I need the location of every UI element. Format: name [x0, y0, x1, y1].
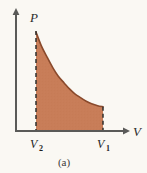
x-tick-label-v2-subscript: 2 — [39, 144, 43, 153]
pv-diagram-canvas: P V V 2 V 1 (a) — [0, 0, 147, 173]
y-axis-label: P — [29, 10, 38, 25]
x-tick-label-v1-subscript: 1 — [106, 144, 110, 153]
figure-caption: (a) — [58, 156, 71, 169]
pv-diagram-figure: P V V 2 V 1 (a) — [0, 0, 147, 173]
figure-background — [0, 0, 147, 173]
